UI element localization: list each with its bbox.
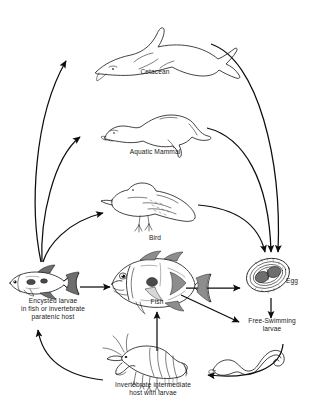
gull-icon — [101, 183, 195, 232]
node-label-invertebrate-host: Invertebrate intermediate host with larv… — [97, 381, 209, 397]
node-label-cetacean: Cetacean — [105, 68, 205, 76]
node-label-aquatic-mammal: Aquatic Mammal — [100, 148, 210, 156]
organism-layer — [0, 0, 312, 402]
node-label-fish: Fish — [130, 298, 184, 306]
node-label-egg: Egg — [286, 277, 310, 285]
node-label-bird: Bird — [125, 234, 185, 242]
larva-worm-icon — [209, 350, 284, 375]
egg-icon — [242, 253, 294, 297]
node-label-free-swimming-larvae: Free-Swimming larvae — [233, 317, 311, 333]
small-fish-icon — [10, 265, 79, 299]
node-label-encysted-larvae: Encysted larvae in fish or invertebrate … — [3, 297, 103, 322]
life-cycle-diagram: Cetacean Aquatic Mammal Bird Encysted la… — [0, 0, 312, 402]
